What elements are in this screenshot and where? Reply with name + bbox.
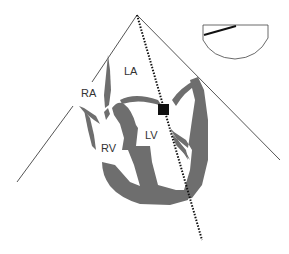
myocardium bbox=[79, 55, 208, 205]
label-right-ventricle: RV bbox=[101, 143, 116, 154]
sample-volume-gate bbox=[158, 104, 169, 115]
label-right-atrium: RA bbox=[81, 88, 96, 99]
probe-orientation-inset bbox=[203, 25, 268, 59]
heart-diagram bbox=[0, 0, 289, 254]
label-left-ventricle: LV bbox=[145, 130, 158, 141]
label-left-atrium: LA bbox=[124, 66, 137, 77]
